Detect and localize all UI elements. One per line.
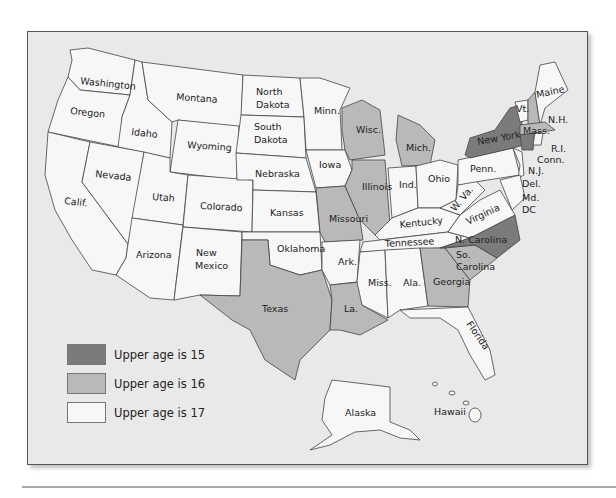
divider [22,486,616,488]
label-north-dakota-1: North [256,86,283,97]
legend-item-age17: Upper age is 17 [67,398,205,427]
label-utah: Utah [152,191,175,204]
legend-item-age15: Upper age is 15 [67,340,205,369]
label-south-dakota-2: Dakota [254,134,288,145]
label-md: Md. [522,192,539,203]
label-ind: Ind. [399,179,417,190]
label-hawaii: Hawaii [434,406,466,417]
legend-item-age16: Upper age is 16 [67,369,205,398]
label-ohio: Ohio [428,173,450,184]
label-conn: Conn. [537,154,565,165]
label-dc: DC [522,204,536,215]
label-texas: Texas [261,303,288,314]
label-la: La. [344,303,358,314]
label-ri: R.I. [551,143,566,154]
label-so-carolina-2: Carolina [456,261,495,272]
label-georgia: Georgia [433,276,470,287]
legend-swatch-age16 [67,373,106,394]
label-mich: Mich. [406,142,431,153]
label-arizona: Arizona [136,249,172,260]
label-colorado: Colorado [200,200,243,213]
legend: Upper age is 15 Upper age is 16 Upper ag… [67,340,205,427]
label-penn: Penn. [470,163,496,174]
label-north-dakota-2: Dakota [256,99,290,110]
label-new-mexico-1: New [196,247,217,258]
label-vt: Vt. [516,103,529,114]
label-n-carolina: N. Carolina [455,234,507,245]
label-wisc: Wisc. [356,124,381,135]
label-minn: Minn. [314,105,340,116]
legend-swatch-age17 [67,402,106,423]
label-ala: Ala. [403,277,421,288]
label-missouri: Missouri [329,213,368,224]
label-nj: N.J. [528,165,544,176]
legend-label-age17: Upper age is 17 [114,406,205,420]
label-nebraska: Nebraska [255,168,300,179]
state-hawaii-kauai [433,382,438,386]
label-new-mexico-2: Mexico [195,260,228,271]
label-oklahoma: Oklahoma [277,243,325,254]
legend-swatch-age15 [67,344,106,365]
state-hawaii-oahu [449,391,455,395]
label-kansas: Kansas [270,207,304,218]
label-iowa: Iowa [319,159,341,170]
label-illinois: Illinois [362,181,392,192]
state-hawaii-maui [463,401,469,405]
label-miss: Miss. [368,277,392,288]
label-alaska: Alaska [345,407,376,418]
label-nh: N.H. [548,114,568,125]
label-del: Del. [522,178,541,189]
label-mass: Mass. [523,125,550,136]
state-mich [396,115,435,166]
label-so-carolina-1: So. [456,249,471,260]
label-south-dakota-1: South [254,121,282,132]
legend-label-age15: Upper age is 15 [114,348,205,362]
legend-label-age16: Upper age is 16 [114,377,205,391]
state-hawaii-big-island [469,408,481,422]
label-ark: Ark. [338,256,357,267]
